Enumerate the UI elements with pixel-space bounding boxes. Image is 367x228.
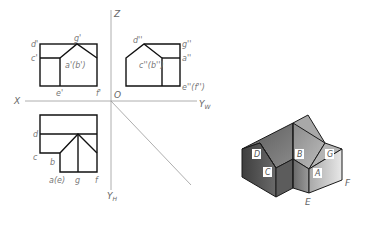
three-view-drawing: Z X O YW YH d' g' c' a'(b') e' f' d'' g'…	[0, 0, 367, 228]
vertex-label-e: E	[305, 197, 311, 207]
vertex-label-f: F	[345, 178, 351, 188]
45-degree-miter-line	[111, 101, 191, 185]
label-d-double-prime: d''	[133, 36, 142, 45]
label-e-f-double-prime: e''(f'')	[182, 83, 205, 92]
front-view-roof	[60, 44, 97, 58]
projection-axes: Z X O YW YH	[13, 9, 212, 202]
face-label-a: A	[314, 169, 320, 178]
label-c: c	[33, 153, 38, 162]
label-d-prime: d'	[31, 40, 38, 49]
label-c-b-double-prime: c''(b'')	[139, 61, 164, 70]
label-e-prime: e'	[56, 89, 63, 98]
label-b: b	[50, 158, 55, 167]
label-g-double-prime: g''	[182, 40, 191, 49]
label-g: g	[75, 176, 80, 185]
origin-label: O	[114, 90, 121, 100]
yw-axis-label: YW	[199, 99, 212, 110]
isometric-solid: D B G C A F E	[242, 115, 351, 207]
x-axis-label: X	[13, 96, 21, 106]
front-view-notch	[40, 58, 60, 86]
face-label-b: B	[297, 150, 303, 159]
face-label-d: D	[254, 150, 260, 159]
front-view: d' g' c' a'(b') e' f'	[31, 34, 101, 98]
face-label-g: G	[327, 150, 333, 159]
label-f-prime: f'	[96, 89, 101, 98]
side-view: d'' g'' c''(b'') a'' e''(f'')	[126, 36, 205, 92]
label-g-prime: g'	[74, 34, 81, 43]
face-label-c: C	[265, 168, 271, 177]
z-axis-label: Z	[113, 9, 121, 19]
top-view: d c b a(e) g f	[33, 115, 99, 185]
label-d: d	[33, 130, 39, 139]
yh-axis-label: YH	[107, 191, 118, 202]
label-c-prime: c'	[31, 54, 38, 63]
label-f: f	[95, 176, 99, 185]
label-a-e: a(e)	[49, 176, 65, 185]
label-a-b-prime: a'(b')	[65, 61, 86, 70]
label-a-double-prime: a''	[182, 54, 191, 63]
